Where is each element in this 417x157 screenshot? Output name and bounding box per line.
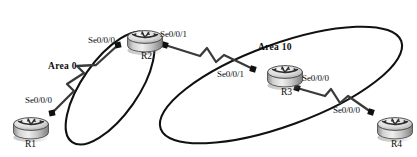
area-label-area-10: Area 10: [258, 43, 292, 53]
router-label-r4: R4: [391, 140, 402, 150]
interface-label-r3-se000: Se0/0/0: [302, 74, 329, 83]
router-label-r2: R2: [141, 52, 152, 62]
interface-label-r1-se000: Se0/0/0: [25, 96, 52, 105]
topology-svg: [0, 0, 417, 157]
network-diagram-canvas: Area 0 Area 10 R1 R2 R3 R4 Se0/0/0 Se0/0…: [0, 0, 417, 157]
interface-label-r2-se000: Se0/0/0: [88, 36, 115, 45]
router-label-r1: R1: [25, 140, 36, 150]
interface-label-r3-se001: Se0/0/1: [217, 70, 244, 79]
interface-label-r2-se001: Se0/0/1: [160, 30, 187, 39]
link-r1-r2: [48, 41, 121, 116]
router-label-r3: R3: [281, 88, 292, 98]
interface-label-r4-se000: Se0/0/0: [333, 106, 360, 115]
area-label-area-0: Area 0: [48, 62, 77, 72]
